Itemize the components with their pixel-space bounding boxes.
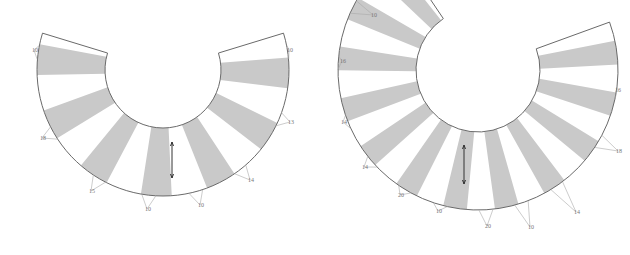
seam-allowance-label: 10 [198,202,204,208]
seam-allowance-label: 14 [362,164,368,170]
seam-allowance-label: 10 [528,224,534,230]
seam-allowance-label: 16 [615,87,621,93]
seam-allowance-label: 16 [340,58,346,64]
seam-allowance-label: 18 [616,148,622,154]
seam-allowance-label: 10 [436,208,442,214]
seam-allowance-label: 20 [398,192,404,198]
gore-panel [443,130,474,210]
seam-allowance-label: 15 [89,188,95,194]
gore-panel [536,79,616,116]
seam-allowance-label: 20 [485,223,491,229]
gore-panel [37,44,107,75]
gore-panel [538,41,618,69]
gore-panel [484,129,518,209]
seam-allowance-label: 10 [371,12,377,18]
notch-marker [595,135,618,151]
gore-panel [338,46,417,71]
seam-allowance-label: 14 [248,177,254,183]
seam-allowance-label: 10 [287,47,293,53]
seam-allowance-label: 10 [32,47,38,53]
seam-allowance-label: 14 [341,119,347,125]
pattern-diagram: 1018151010141310 1016141420102010141816 [0,0,630,255]
gore-panel [182,117,235,188]
seam-allowance-label: 14 [574,209,580,215]
gore-panel [220,58,289,89]
gore-panel [141,127,172,196]
seam-allowance-label: 18 [40,135,46,141]
left-pattern-piece: 1018151010141310 [32,33,294,212]
gore-panel [44,87,115,138]
seam-allowance-label: 13 [288,119,294,125]
right-pattern-piece: 1016141420102010141816 [338,0,622,230]
seam-allowance-label: 10 [145,206,151,212]
